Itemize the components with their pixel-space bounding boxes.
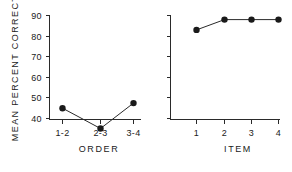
left-x-ticks	[63, 120, 134, 124]
right-y-ticks	[167, 16, 171, 119]
chart-panel-order: 90 80 70 60 50 40 1-2 2-3 3-4 ORDER MEA	[0, 0, 150, 172]
left-axis-lines	[50, 16, 142, 120]
left-data-point-2	[97, 125, 103, 131]
left-y-axis-title: MEAN PERCENT CORRECT	[10, 0, 20, 141]
left-x-tick-label-3-4: 3-4	[126, 128, 140, 138]
right-series-line	[197, 20, 279, 30]
left-y-ticks	[46, 16, 50, 119]
right-x-ticks	[197, 120, 279, 124]
left-y-tick-label-40: 40	[31, 114, 42, 124]
right-data-point-3	[248, 16, 254, 22]
left-data-point-1	[59, 105, 65, 111]
left-y-tick-label-90: 90	[31, 11, 42, 21]
left-data-point-3	[130, 100, 136, 106]
left-x-tick-label-1-2: 1-2	[55, 128, 69, 138]
right-data-point-2	[221, 16, 227, 22]
right-x-tick-label-2: 2	[222, 128, 227, 138]
right-x-tick-label-3: 3	[249, 128, 254, 138]
right-data-point-1	[193, 27, 199, 33]
figure-canvas: 90 80 70 60 50 40 1-2 2-3 3-4 ORDER MEA	[0, 0, 292, 172]
right-x-axis-title: ITEM	[224, 144, 252, 154]
left-y-tick-label-80: 80	[31, 32, 42, 42]
right-x-tick-label-4: 4	[276, 128, 281, 138]
right-panel-plot: 1 2 3 4 ITEM	[150, 0, 292, 172]
left-x-axis-title: ORDER	[79, 144, 120, 154]
left-y-tick-label-60: 60	[31, 73, 42, 83]
left-y-tick-label-50: 50	[31, 93, 42, 103]
left-y-tick-label-70: 70	[31, 52, 42, 62]
left-series-line	[63, 103, 134, 128]
chart-panel-item: 1 2 3 4 ITEM	[150, 0, 292, 172]
right-x-tick-label-1: 1	[194, 128, 199, 138]
right-data-point-4	[275, 16, 281, 22]
right-axis-lines	[171, 16, 281, 120]
left-panel-plot: 90 80 70 60 50 40 1-2 2-3 3-4 ORDER MEA	[0, 0, 150, 172]
